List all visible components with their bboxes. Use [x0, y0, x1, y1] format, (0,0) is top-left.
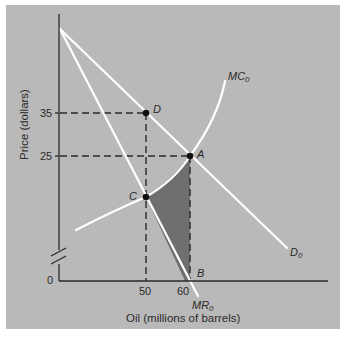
x-axis-title: Oil (millions of barrels) [126, 312, 241, 324]
x-tick-label-60: 60 [177, 285, 189, 297]
origin-label: 0 [47, 274, 53, 286]
point-d-marker [143, 110, 150, 117]
point-c-label: C [129, 190, 137, 202]
y-tick-label-25: 25 [40, 150, 52, 162]
y-axis-title: Price (dollars) [18, 89, 30, 160]
x-tick-label-50: 50 [139, 285, 151, 297]
economics-diagram: D A C B MC0 D0 MR0 35 25 0 50 60 Price (… [0, 0, 345, 338]
point-a-label: A [196, 148, 204, 160]
point-c-marker [143, 194, 150, 201]
point-d-label: D [153, 103, 161, 115]
y-tick-label-35: 35 [40, 107, 52, 119]
point-b-label: B [197, 267, 204, 279]
point-a-marker [187, 153, 194, 160]
